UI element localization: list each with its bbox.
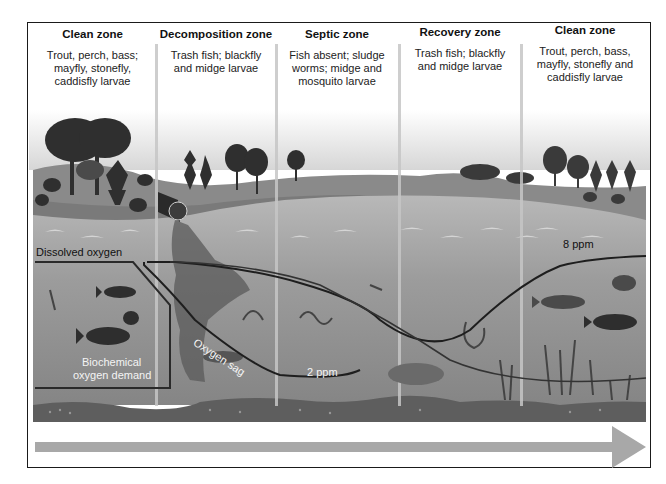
- zone-title: Decomposition zone: [155, 28, 277, 40]
- zone-desc-line: mosquito larvae: [276, 75, 398, 88]
- zone-desc-line: and midge larvae: [155, 62, 277, 75]
- dissolved-oxygen-label: Dissolved oxygen: [36, 246, 122, 258]
- zone-decomposition: Decomposition zone Trash fish; blackfly …: [155, 28, 277, 75]
- zone-recovery: Recovery zone Trash fish; blackfly and m…: [399, 26, 521, 73]
- zone-septic: Septic zone Fish absent; sludge worms; m…: [276, 28, 398, 88]
- zone-desc-line: Trash fish; blackfly: [399, 47, 521, 60]
- zone-title: Recovery zone: [399, 26, 521, 38]
- zone-clean-right: Clean zone Trout, perch, bass, mayfly, s…: [521, 24, 649, 84]
- zone-title: Clean zone: [30, 28, 155, 40]
- zone-desc-line: caddisfly larvae: [521, 71, 649, 84]
- bod-label-line1: Biochemical: [82, 356, 141, 368]
- zone-title: Septic zone: [276, 28, 398, 40]
- bod-label-line2: oxygen demand: [73, 369, 151, 381]
- zone-desc-line: Trash fish; blackfly: [155, 49, 277, 62]
- zone-title: Clean zone: [521, 24, 649, 36]
- zone-desc-line: and midge larvae: [399, 60, 521, 73]
- zone-desc-line: Trout, perch, bass;: [30, 49, 155, 62]
- zone-desc-line: mayfly, stonefly and: [521, 58, 649, 71]
- flow-arrow: [35, 426, 646, 468]
- low-do-label: 2 ppm: [307, 366, 338, 378]
- zone-desc-line: worms; midge and: [276, 62, 398, 75]
- zone-desc-line: caddisfly larvae: [30, 75, 155, 88]
- zone-desc-line: Fish absent; sludge: [276, 49, 398, 62]
- zone-clean-left: Clean zone Trout, perch, bass; mayfly, s…: [30, 28, 155, 88]
- zone-desc-line: mayfly, stonefly,: [30, 62, 155, 75]
- zone-desc-line: Trout, perch, bass,: [521, 45, 649, 58]
- high-do-label: 8 ppm: [563, 238, 594, 250]
